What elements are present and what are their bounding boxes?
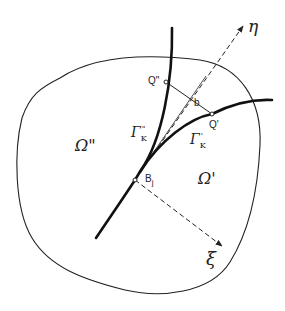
curve-gamma-k-prime xyxy=(140,100,272,172)
gamma-double-prime-sup: " xyxy=(142,124,146,133)
label-b: b xyxy=(194,98,200,108)
label-gamma-k-prime: ΓK' xyxy=(190,132,203,150)
label-bj-sub: j xyxy=(152,178,154,187)
gamma-prime-main: Γ xyxy=(190,131,200,147)
q-segment xyxy=(166,82,212,114)
label-xi: ξ xyxy=(206,250,216,268)
gamma-double-prime-main: Γ xyxy=(131,124,141,140)
gamma-double-prime-sub: K xyxy=(141,134,147,143)
label-bj-main: B xyxy=(145,173,152,184)
point-q-double-prime xyxy=(164,80,168,84)
label-omega-double-prime: Ω" xyxy=(75,138,96,154)
label-q-prime: Q' xyxy=(209,120,219,130)
xi-axis xyxy=(135,180,222,246)
point-q-prime xyxy=(210,112,214,116)
diagram-svg xyxy=(0,0,285,311)
label-bj: Bj xyxy=(145,174,153,187)
label-gamma-k-double-prime: ΓK" xyxy=(131,125,145,143)
gamma-prime-sup: ' xyxy=(201,131,203,140)
label-eta: η xyxy=(248,18,258,35)
label-omega-prime: Ω' xyxy=(198,171,216,187)
label-q-double-prime: Q" xyxy=(148,76,159,86)
diagram-canvas: Q" Q' b Bj ΓK" ΓK' Ω" Ω' η ξ xyxy=(0,0,285,311)
gamma-prime-sub: K xyxy=(200,141,206,150)
point-bj xyxy=(133,178,137,182)
